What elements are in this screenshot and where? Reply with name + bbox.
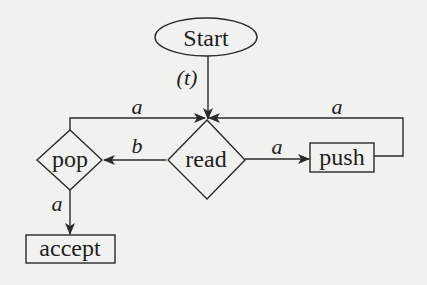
node-push: push xyxy=(310,143,374,172)
node-accept: accept xyxy=(26,235,115,263)
edge-read-pop: b xyxy=(104,133,166,160)
node-pop: pop xyxy=(37,130,102,190)
node-read: read xyxy=(168,120,245,199)
edge-start-read: (t) xyxy=(177,56,208,119)
edge-label-t: (t) xyxy=(177,65,198,90)
edge-pop-accept: a xyxy=(52,190,71,234)
edge-label-a-pop-read: a xyxy=(132,94,143,119)
start-label: Start xyxy=(183,25,229,51)
node-start: Start xyxy=(155,18,257,56)
flowchart-canvas: Start read pop push accept (t) b a a a xyxy=(0,0,427,285)
edge-read-push: a xyxy=(245,134,309,159)
edge-label-a-push-read: a xyxy=(332,94,343,119)
edge-pop-read: a xyxy=(70,94,205,130)
edge-label-a-pop-accept: a xyxy=(52,191,63,216)
edge-label-b: b xyxy=(132,133,143,158)
read-label: read xyxy=(185,146,226,172)
arrow-pop-to-read xyxy=(70,118,205,130)
pop-label: pop xyxy=(52,146,88,172)
push-label: push xyxy=(319,144,364,170)
edge-label-a-read-push: a xyxy=(272,134,283,159)
accept-label: accept xyxy=(39,235,101,261)
